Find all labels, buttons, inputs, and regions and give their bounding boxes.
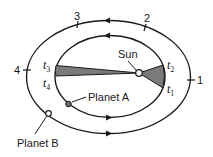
planet-b-leader-line [35,117,47,135]
kepler-orbit-diagram: 1 2 3 4 t1 t2 t3 t4 Sun Planet A Planet … [0,0,213,157]
arrow-icon [106,115,112,121]
mark-label-2: 2 [144,12,150,24]
mark-label-4: 4 [14,64,20,76]
arrow-icon [104,18,110,24]
tick-mark-3 [77,21,78,28]
time-label-t2: t2 [167,58,174,74]
planet-b-icon [46,111,52,117]
planet-a-leader-line [72,97,86,102]
time-label-t3: t3 [43,58,50,74]
tick-mark-2 [144,24,146,31]
mark-label-3: 3 [74,10,80,22]
time-label-t1: t1 [167,82,174,98]
time-label-t4: t4 [43,76,50,92]
arrow-icon [104,33,110,39]
area-wedge-t3-t4 [55,66,139,77]
sun-icon [136,70,143,77]
sun-leader-line [128,61,137,71]
arrow-icon [106,131,112,137]
area-wedge-t1-t2 [139,65,165,88]
planet-a-label: Planet A [88,91,130,103]
sun-label: Sun [118,48,138,60]
planet-b-label: Planet B [17,137,59,149]
mark-label-1: 1 [197,74,203,86]
planet-a-icon [66,101,72,107]
